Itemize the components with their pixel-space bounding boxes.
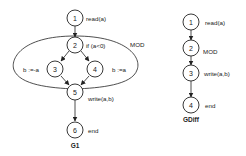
edge-2-3: [61, 51, 69, 61]
node-number: 1: [189, 19, 193, 26]
node-label: read(a): [205, 19, 225, 26]
mod-region-label: MOD: [130, 41, 145, 48]
g1-node-6: 6 end: [67, 122, 99, 138]
edge-4-5: [81, 76, 89, 85]
gdiff-node-4: 4 end: [183, 97, 216, 113]
g1-node-4: 4 b :=a: [87, 61, 126, 77]
gdiff-node-3: 3 write(a,b): [183, 65, 230, 81]
g1-node-5: 5 write(a,b): [67, 84, 114, 102]
graph-title-g1: G1: [71, 142, 80, 149]
edge-3-5: [61, 76, 69, 85]
graph-g1: MOD 1 read(a) 2 if (a<0) 3 b :=-a 4 b :=…: [13, 10, 145, 149]
node-number: 3: [189, 70, 193, 77]
edge-2-4: [81, 51, 89, 61]
node-label: b :=a: [112, 66, 126, 73]
gdiff-node-1: 1 read(a): [183, 14, 225, 30]
node-label: MOD: [203, 48, 218, 55]
graph-gdiff: 1 read(a) 2 MOD 3 write(a,b) 4 end GDiff: [183, 14, 230, 123]
node-label: read(a): [86, 15, 106, 22]
node-number: 5: [73, 89, 77, 96]
node-label: if (a<0): [86, 42, 105, 49]
node-number: 4: [93, 66, 97, 73]
node-number: 2: [189, 45, 193, 52]
node-number: 1: [73, 15, 77, 22]
node-number: 3: [53, 66, 57, 73]
node-label: b :=-a: [23, 66, 40, 73]
g1-node-1: 1 read(a): [67, 10, 106, 26]
graph-title-gdiff: GDiff: [183, 116, 200, 123]
node-number: 4: [189, 102, 193, 109]
node-label: end: [88, 127, 99, 134]
gdiff-node-2: 2 MOD: [183, 40, 218, 56]
node-label: write(a,b): [87, 95, 114, 102]
diagram-canvas: MOD 1 read(a) 2 if (a<0) 3 b :=-a 4 b :=…: [0, 0, 246, 156]
node-number: 6: [73, 127, 77, 134]
node-label: end: [205, 102, 216, 109]
g1-node-2: 2 if (a<0): [67, 37, 105, 53]
node-number: 2: [73, 42, 77, 49]
g1-node-3: 3 b :=-a: [23, 61, 63, 77]
node-label: write(a,b): [203, 70, 230, 77]
